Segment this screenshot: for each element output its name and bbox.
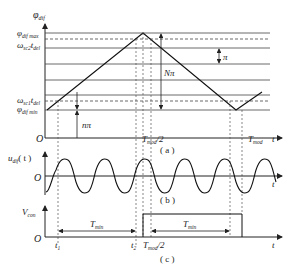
- n-pi-label: nπ: [82, 120, 92, 130]
- origin-b: O: [34, 172, 41, 183]
- t-min-label-2: Tmin: [183, 219, 197, 230]
- caption-a: ( a ): [160, 145, 175, 155]
- origin-c: O: [34, 233, 41, 244]
- panel-c: Tmin Tmin Vcon O t1 t2 Tmod/2 t ( c ): [22, 206, 282, 264]
- omega2-tdel-label: ωsc2tdel: [17, 40, 40, 51]
- t2-label: t2: [131, 240, 137, 251]
- phi-min-label: φdif min: [17, 104, 38, 115]
- y-axis-label-b: udif( t ): [8, 153, 31, 164]
- caption-c: ( c ): [160, 254, 175, 264]
- phi-max-label: φdif max: [17, 28, 39, 39]
- origin-a: O: [36, 133, 43, 144]
- panel-a: nπ Nπ π φdif φdif max ωsc2tdel ωsc1tdel …: [17, 9, 282, 155]
- t-axis-label-a: t: [272, 134, 275, 144]
- panel-b: udif( t ) O t ( b ): [8, 152, 282, 205]
- phase-modulation-diagram: nπ Nπ π φdif φdif max ωsc2tdel ωsc1tdel …: [0, 0, 290, 272]
- phase-triangle: [47, 33, 262, 110]
- N-pi-label: Nπ: [163, 68, 175, 78]
- t-mod-half-label-c: Tmod/2: [143, 240, 165, 251]
- y-axis-label-a: φdif: [33, 9, 46, 21]
- t-axis-label-b: t: [272, 179, 275, 189]
- y-axis-label-c: Vcon: [22, 207, 36, 218]
- t-min-label-1: Tmin: [90, 219, 104, 230]
- pi-label: π: [223, 52, 228, 62]
- t-mod-label: Tmod: [248, 134, 263, 145]
- caption-b: ( b ): [160, 195, 175, 205]
- t-mod-half-label-a: Tmod/2: [142, 134, 164, 145]
- t-axis-label-c: t: [272, 240, 275, 250]
